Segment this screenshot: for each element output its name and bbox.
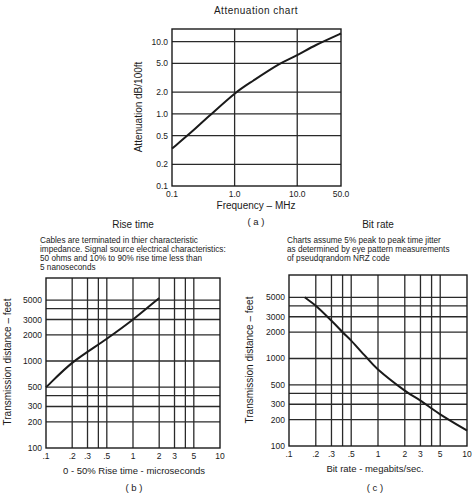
plot-grid [289,275,467,446]
y-tick-label: 3000 [23,315,42,325]
y-tick-label: 2.0 [156,87,168,97]
figure-caption: ( b ) [126,482,143,493]
y-tick-label: 100 [271,441,285,451]
x-tick-label: 5 [438,449,443,459]
y-tick-label: 0.2 [156,159,168,169]
y-tick-label: 1000 [23,356,42,366]
chart-title: Bit rate [362,219,394,230]
x-axis-label: 0 - 50% Rise time - microseconds [63,465,205,476]
x-tick-label: 10.0 [289,189,306,199]
rise-time-note: Cables are terminated in thier character… [40,236,240,272]
y-tick-labels: 1002003005001000200030005000 [23,295,42,453]
y-tick-label: 300 [271,399,285,409]
x-tick-label: 1 [131,451,136,461]
y-tick-label: 200 [28,417,42,427]
x-tick-label: .1 [285,449,292,459]
plot-grid [172,29,341,186]
note-line: Charts assume 5% peak to peak time jitte… [287,236,476,245]
plot-frame [172,29,341,186]
x-tick-label: 10 [462,449,472,459]
x-tick-label: 1 [376,449,381,459]
y-tick-labels: 1002003005001000200030005000 [266,292,285,451]
y-tick-label: 300 [28,401,42,411]
chart-title: Rise time [112,219,154,230]
y-axis-label: Attenuation dB/100ft [133,61,144,152]
y-tick-label: 5000 [266,292,285,302]
x-tick-label: .3 [328,449,335,459]
x-tick-label: 2 [402,449,407,459]
chart-title: Attenuation chart [214,5,298,16]
y-axis-label: Transmission distance – feet [244,296,255,423]
y-tick-label: 5.0 [156,58,168,68]
x-tick-label: 2 [157,451,162,461]
note-line: 50 ohms and 10% to 90% rise time less th… [40,254,240,263]
x-tick-label: .5 [103,451,110,461]
x-tick-label: 0.1 [166,189,178,199]
x-tick-label: .3 [84,451,91,461]
y-tick-label: 10.0 [151,37,168,47]
data-curve [172,34,341,149]
x-axis-label: Frequency – MHz [217,200,296,211]
figure-caption: ( a ) [248,216,265,227]
y-tick-label: 200 [271,415,285,425]
y-tick-label: 2000 [266,327,285,337]
y-tick-label: 500 [28,382,42,392]
x-tick-labels: .1.2.3.5123510 [285,449,472,459]
y-tick-label: 100 [28,443,42,453]
note-line: impedance. Signal source electrical char… [40,245,240,254]
x-tick-labels: .1.2.3.5123510 [42,451,225,461]
x-tick-label: 3 [172,451,177,461]
x-tick-label: 5 [191,451,196,461]
note-line: Cables are terminated in thier character… [40,236,240,245]
bit-rate-note: Charts assume 5% peak to peak time jitte… [287,236,476,263]
attenuation-chart: Attenuation chart 0.10.20.51.02.05.010.0… [133,5,350,227]
note-line: as determined by eye pattern measurement… [287,245,476,254]
x-tick-label: 3 [418,449,423,459]
y-tick-label: 1000 [266,353,285,363]
x-tick-label: 10 [215,451,225,461]
x-tick-label: .5 [348,449,355,459]
x-tick-labels: 0.11.010.050.0 [166,189,349,199]
note-line: 5 nanoseconds [40,263,240,272]
y-tick-label: 500 [271,380,285,390]
x-tick-label: .2 [69,451,76,461]
y-tick-label: 2000 [23,330,42,340]
figure-caption: ( c ) [367,482,383,493]
y-tick-label: 3000 [266,312,285,322]
y-tick-label: 5000 [23,295,42,305]
x-tick-label: 50.0 [333,189,350,199]
x-axis-label: Bit rate - megabits/sec. [326,463,423,474]
x-tick-label: .2 [312,449,319,459]
y-axis-label: Transmission distance – feet [2,298,13,425]
y-tick-labels: 0.10.20.51.02.05.010.0 [151,37,168,191]
x-tick-label: 1.0 [229,189,241,199]
x-tick-label: .1 [42,451,49,461]
y-tick-label: 0.5 [156,131,168,141]
y-tick-label: 1.0 [156,109,168,119]
note-line: of pseudqrandom NRZ code [287,254,476,263]
data-curve [46,298,159,387]
